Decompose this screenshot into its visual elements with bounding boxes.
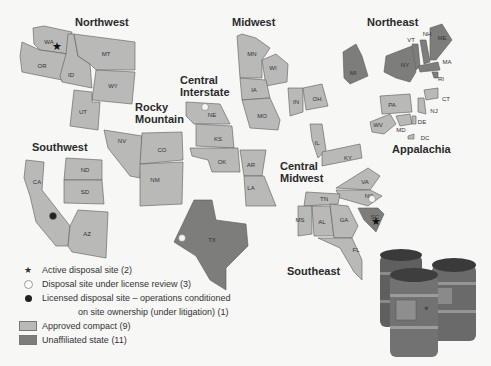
state-label-ut: UT bbox=[79, 109, 87, 115]
region-label: Central bbox=[180, 74, 218, 86]
unaffiliated-swatch bbox=[14, 335, 42, 345]
legend-item-unaffiliated: Unaffiliated state (11) bbox=[14, 333, 231, 347]
state-label-az: AZ bbox=[83, 231, 91, 237]
legend-item-litigation-cont: on site ownership (under litigation) (1) bbox=[14, 305, 231, 319]
state-ma[interactable] bbox=[418, 62, 440, 72]
state-label-va: VA bbox=[361, 179, 369, 185]
state-label-in: IN bbox=[293, 99, 299, 105]
state-label-tn: TN bbox=[320, 196, 328, 202]
region-label: Southeast bbox=[287, 265, 341, 277]
state-ca[interactable] bbox=[24, 160, 70, 246]
state-nh[interactable] bbox=[420, 40, 430, 64]
state-label-nh: NH bbox=[423, 31, 432, 37]
state-label-mt: MT bbox=[102, 51, 111, 57]
region-label: Southwest bbox=[32, 141, 88, 153]
open-circle-icon[interactable] bbox=[369, 196, 376, 203]
state-label-ne: NE bbox=[208, 112, 216, 118]
state-label-la: LA bbox=[247, 185, 254, 191]
star-icon[interactable]: ★ bbox=[52, 40, 62, 52]
state-label-md: MD bbox=[396, 127, 406, 133]
legend-item-litigation: Licensed disposal site – operations cond… bbox=[14, 291, 231, 305]
state-label-ia: IA bbox=[251, 87, 257, 93]
open-circle-icon[interactable] bbox=[179, 235, 186, 242]
state-label-wv: WV bbox=[373, 122, 383, 128]
state-label-or: OR bbox=[38, 63, 48, 69]
state-label-me: ME bbox=[438, 35, 447, 41]
state-va[interactable] bbox=[336, 168, 380, 190]
state-label-il: IL bbox=[314, 140, 320, 146]
state-label-de: DE bbox=[418, 119, 426, 125]
state-label-ky: KY bbox=[344, 155, 352, 161]
state-label-ma: MA bbox=[443, 59, 452, 65]
region-label: Midwest bbox=[232, 16, 276, 28]
state-nj[interactable] bbox=[418, 98, 426, 114]
state-label-ct: CT bbox=[442, 96, 450, 102]
state-label-oh: OH bbox=[313, 96, 322, 102]
region-label: Central bbox=[280, 160, 318, 172]
state-label-ca: CA bbox=[33, 179, 41, 185]
region-northwest bbox=[20, 26, 135, 130]
state-md[interactable] bbox=[396, 114, 412, 126]
state-pa[interactable] bbox=[380, 94, 412, 114]
region-label: Rocky bbox=[135, 101, 169, 113]
region-label: Interstate bbox=[180, 86, 230, 98]
state-mi[interactable] bbox=[343, 44, 368, 84]
star-icon: ★ bbox=[14, 265, 42, 275]
region-label: Northwest bbox=[75, 16, 129, 28]
state-nm[interactable] bbox=[140, 162, 183, 206]
region-label: Appalachia bbox=[392, 143, 452, 155]
legend-item-review: Disposal site under license review (3) bbox=[14, 277, 231, 291]
state-label-ar: AR bbox=[247, 162, 256, 168]
state-ct[interactable] bbox=[424, 88, 438, 100]
barrel-front: ☢ bbox=[390, 268, 438, 357]
state-label-id: ID bbox=[68, 72, 75, 78]
state-label-sd: SD bbox=[81, 189, 90, 195]
open-circle-icon bbox=[14, 280, 42, 289]
state-label-nj: NJ bbox=[430, 108, 437, 114]
state-label-wi: WI bbox=[269, 65, 277, 71]
state-label-ks: KS bbox=[214, 136, 222, 142]
region-southwest bbox=[24, 158, 108, 258]
state-ok[interactable] bbox=[190, 148, 240, 172]
state-label-al: AL bbox=[318, 219, 326, 225]
region-label: Midwest bbox=[280, 172, 324, 184]
region-label: Northeast bbox=[367, 16, 419, 28]
waste-barrels-illustration: ☢ bbox=[380, 249, 476, 357]
state-label-pa: PA bbox=[388, 102, 396, 108]
state-label-mi: MI bbox=[350, 70, 357, 76]
state-label-nd: ND bbox=[81, 167, 90, 173]
region-midwest bbox=[237, 34, 328, 130]
state-dc[interactable] bbox=[408, 134, 414, 139]
state-label-ny: NY bbox=[401, 62, 409, 68]
state-label-tx: TX bbox=[208, 237, 216, 243]
state-me[interactable] bbox=[430, 24, 452, 60]
state-label-ok: OK bbox=[218, 159, 227, 165]
state-label-nv: NV bbox=[118, 138, 126, 144]
open-circle-icon[interactable] bbox=[202, 104, 209, 111]
region-rocky-mountain bbox=[104, 130, 183, 206]
state-label-ms: MS bbox=[296, 217, 305, 223]
compact-swatch bbox=[14, 321, 42, 331]
region-appalachia bbox=[370, 94, 416, 139]
legend-item-active: ★ Active disposal site (2) bbox=[14, 263, 231, 277]
state-label-vt: VT bbox=[407, 37, 415, 43]
state-label-wy: WY bbox=[108, 83, 118, 89]
state-label-co: CO bbox=[158, 147, 167, 153]
region-label: Mountain bbox=[135, 113, 184, 125]
state-label-nm: NM bbox=[150, 177, 159, 183]
state-label-mo: MO bbox=[257, 113, 267, 119]
filled-circle-icon[interactable] bbox=[50, 213, 57, 220]
state-la[interactable] bbox=[244, 176, 276, 206]
star-icon[interactable]: ★ bbox=[371, 215, 381, 227]
state-label-ga: GA bbox=[340, 217, 349, 223]
filled-circle-icon bbox=[14, 295, 42, 302]
legend-item-compact: Approved compact (9) bbox=[14, 319, 231, 333]
state-label-dc: DC bbox=[421, 135, 430, 141]
state-label-ri: RI bbox=[438, 76, 444, 82]
state-label-mn: MN bbox=[247, 51, 256, 57]
legend: ★ Active disposal site (2) Disposal site… bbox=[14, 263, 231, 347]
barrel-right bbox=[432, 258, 476, 341]
state-ky[interactable] bbox=[322, 144, 362, 166]
state-de[interactable] bbox=[412, 116, 416, 124]
state-label-fl: FL bbox=[352, 247, 360, 253]
